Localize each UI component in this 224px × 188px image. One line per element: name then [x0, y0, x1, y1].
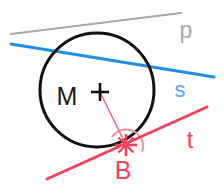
geometry-canvas: M B p s t [0, 0, 224, 188]
tangency-point-marker-b [115, 134, 137, 156]
line-label-s: s [175, 77, 186, 102]
center-point-marker-m [91, 83, 109, 101]
point-label-m: M [57, 82, 78, 110]
geometry-figure: M B p s t [0, 0, 224, 188]
line-label-t: t [187, 127, 194, 153]
point-label-b: B [115, 156, 132, 184]
line-p [11, 13, 181, 34]
line-label-p: p [180, 17, 193, 43]
